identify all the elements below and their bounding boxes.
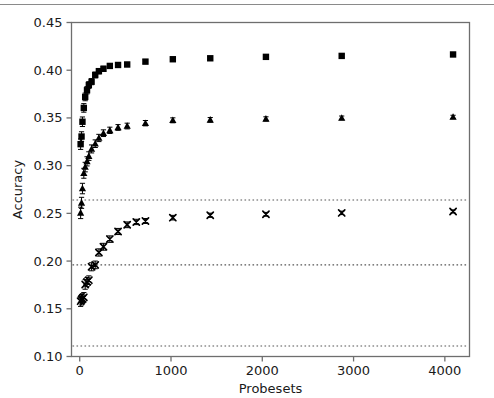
data-point	[170, 56, 176, 62]
data-point	[115, 62, 121, 68]
data-point	[169, 117, 176, 124]
y-axis-title: Accuracy	[10, 160, 25, 220]
data-point	[263, 211, 269, 217]
data-point	[107, 63, 113, 69]
square-marker	[81, 105, 87, 111]
triangle-marker	[100, 129, 107, 136]
square-marker	[82, 94, 88, 100]
y-tick-label: 0.30	[34, 158, 63, 173]
data-point	[207, 116, 214, 123]
y-tick-label: 0.40	[34, 63, 63, 78]
y-tick-label: 0.20	[34, 254, 63, 269]
data-point	[78, 132, 84, 142]
square-marker	[450, 51, 456, 57]
data-point	[124, 61, 130, 67]
data-point	[106, 127, 113, 134]
data-point	[100, 129, 107, 136]
x-tick-label: 1000	[154, 363, 187, 378]
data-point	[263, 54, 269, 60]
data-point	[338, 114, 345, 121]
y-tick-label: 0.45	[34, 15, 63, 30]
x-axis-title: Probesets	[239, 381, 303, 396]
x-tick-label: 3000	[337, 363, 370, 378]
triangle-marker	[92, 140, 99, 147]
x-marker	[450, 208, 456, 214]
plot-axes	[67, 23, 470, 362]
data-point	[88, 78, 94, 84]
square-marker	[78, 133, 84, 139]
triangle-marker	[449, 113, 456, 120]
series-triangles	[77, 113, 457, 218]
data-point	[170, 215, 176, 221]
data-point	[262, 115, 269, 122]
square-marker	[100, 66, 106, 72]
data-point	[207, 212, 213, 218]
y-tick-label: 0.25	[34, 206, 63, 221]
reference-lines-layer	[73, 200, 469, 346]
x-tick-label: 4000	[428, 363, 461, 378]
series-x-markers	[78, 208, 457, 306]
data-point	[79, 117, 85, 127]
data-point	[133, 219, 139, 225]
square-marker	[107, 63, 113, 69]
data-point	[339, 210, 345, 216]
data-point	[450, 208, 456, 214]
data-point	[124, 122, 131, 129]
x-tick-label: 0	[76, 363, 84, 378]
page-top-rule	[0, 4, 494, 5]
square-marker	[77, 141, 83, 147]
y-tick-label: 0.10	[34, 349, 63, 364]
data-point	[81, 104, 87, 113]
triangle-marker	[78, 199, 85, 206]
data-point	[142, 218, 148, 224]
accuracy-vs-probesets-scatter-plot: 0.100.150.200.250.300.350.400.4501000200…	[0, 0, 494, 398]
square-marker	[88, 78, 94, 84]
plot-frame	[72, 23, 470, 357]
triangle-marker	[79, 185, 86, 192]
data-point	[77, 139, 83, 149]
triangle-marker	[207, 116, 214, 123]
square-marker	[170, 56, 176, 62]
square-marker	[263, 54, 269, 60]
square-marker	[339, 53, 345, 59]
data-point	[100, 66, 106, 72]
triangle-marker	[262, 115, 269, 122]
data-point	[79, 183, 86, 193]
data-point	[142, 58, 148, 64]
data-point	[114, 124, 121, 131]
data-point	[450, 51, 456, 57]
x-tick-label: 2000	[246, 363, 279, 378]
triangle-marker	[80, 169, 87, 176]
data-point	[449, 113, 456, 120]
chart-figure: 0.100.150.200.250.300.350.400.4501000200…	[0, 0, 494, 398]
triangle-marker	[77, 209, 84, 216]
y-tick-label: 0.15	[34, 301, 63, 316]
square-marker	[79, 119, 85, 125]
axis-labels-layer: 0.100.150.200.250.300.350.400.4501000200…	[10, 15, 461, 396]
square-marker	[142, 58, 148, 64]
data-point	[124, 222, 130, 228]
data-point	[142, 119, 149, 126]
y-tick-label: 0.35	[34, 110, 63, 125]
data-point	[92, 140, 99, 148]
series-squares	[77, 51, 456, 149]
triangle-marker	[338, 114, 345, 121]
square-marker	[124, 61, 130, 67]
data-point	[339, 53, 345, 59]
data-points-layer	[77, 51, 457, 306]
data-point	[207, 55, 213, 61]
square-marker	[115, 62, 121, 68]
data-point	[100, 243, 106, 250]
square-marker	[207, 55, 213, 61]
triangle-marker	[82, 163, 89, 170]
data-point	[115, 228, 121, 234]
data-point	[107, 236, 113, 242]
